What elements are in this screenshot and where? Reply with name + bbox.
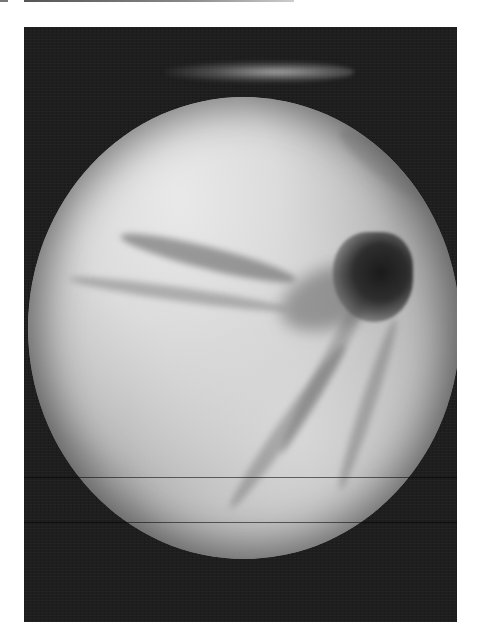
light-glare-reflection: [164, 61, 354, 83]
scanline-artifact: [24, 522, 457, 523]
top-edge-strip: [24, 0, 294, 2]
edge-artifact: [0, 0, 8, 2]
field-vignette: [28, 97, 457, 559]
endoscopic-image-frame: [24, 27, 457, 622]
circular-field-of-view: [28, 97, 457, 559]
scanline-artifact: [24, 477, 457, 478]
